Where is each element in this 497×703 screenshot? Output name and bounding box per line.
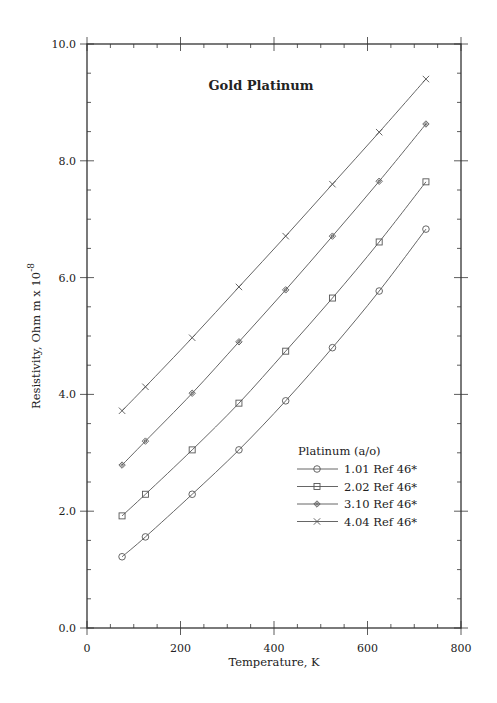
x-marker xyxy=(423,76,429,82)
y-tick-label: 4.0 xyxy=(59,388,77,401)
x-marker xyxy=(142,384,148,390)
legend-item: 2.02 Ref 46* xyxy=(297,480,417,494)
legend-label: 3.10 Ref 46* xyxy=(344,497,417,511)
x-marker xyxy=(329,181,335,187)
legend-label: 2.02 Ref 46* xyxy=(344,480,417,494)
legend-item: 1.01 Ref 46* xyxy=(297,462,417,476)
axis-ticks xyxy=(80,37,468,635)
plot-border xyxy=(87,44,461,628)
x-tick-label: 600 xyxy=(357,642,378,655)
y-axis-title-group: Resistivity, Ohm m x 10-8 xyxy=(26,263,43,409)
x-tick-label: 0 xyxy=(84,642,91,655)
y-axis-title-exponent: -8 xyxy=(26,263,36,272)
series-diamond xyxy=(119,121,429,468)
x-marker xyxy=(376,129,382,135)
legend-label: 4.04 Ref 46* xyxy=(344,515,417,529)
x-marker xyxy=(119,408,125,414)
legend-title: Platinum (a/o) xyxy=(298,444,381,458)
x-marker xyxy=(236,284,242,290)
x-axis-title: Temperature, K xyxy=(228,655,320,669)
legend-item: 3.10 Ref 46* xyxy=(297,497,417,511)
x-marker xyxy=(189,335,195,341)
x-tick-label: 800 xyxy=(451,642,472,655)
legend: Platinum (a/o) 1.01 Ref 46*2.02 Ref 46*3… xyxy=(297,444,417,529)
y-axis-title: Resistivity, Ohm m x 10 xyxy=(29,272,43,409)
y-tick-label: 2.0 xyxy=(59,505,77,518)
y-tick-label: 0.0 xyxy=(59,622,77,635)
svg-text:Resistivity, Ohm m x 10-8: Resistivity, Ohm m x 10-8 xyxy=(26,263,43,409)
legend-label: 1.01 Ref 46* xyxy=(344,462,417,476)
x-marker xyxy=(282,233,288,239)
chart-title: Gold Platinum xyxy=(208,78,313,93)
x-tick-label: 400 xyxy=(264,642,285,655)
y-tick-label: 6.0 xyxy=(59,272,77,285)
legend-item: 4.04 Ref 46* xyxy=(297,515,417,529)
axis-tick-labels: 02004006008000.02.04.06.08.010.0 xyxy=(52,38,472,655)
x-tick-label: 200 xyxy=(170,642,191,655)
plot-frame xyxy=(87,44,461,628)
resistivity-chart: 02004006008000.02.04.06.08.010.0 Gold Pl… xyxy=(0,0,497,703)
y-tick-label: 8.0 xyxy=(59,155,77,168)
y-tick-label: 10.0 xyxy=(52,38,77,51)
